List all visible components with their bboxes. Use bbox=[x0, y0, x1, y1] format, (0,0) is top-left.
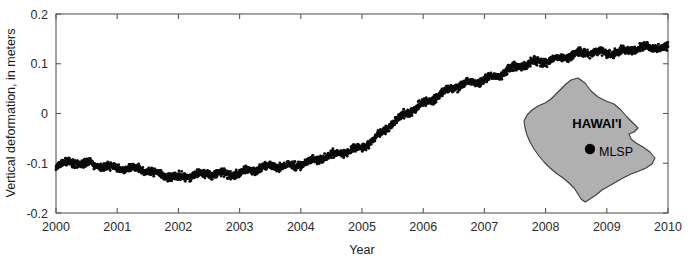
y-tick-label: 0.1 bbox=[31, 57, 48, 71]
x-tick-label: 2010 bbox=[654, 220, 682, 234]
hawaii-inset-map: HAWAI'I MLSP bbox=[524, 78, 655, 202]
x-tick-label: 2008 bbox=[532, 220, 560, 234]
station-marker-label: MLSP bbox=[599, 145, 633, 159]
x-tick-label: 2003 bbox=[226, 220, 254, 234]
x-tick-label: 2002 bbox=[164, 220, 192, 234]
x-tick-label: 2004 bbox=[287, 220, 315, 234]
station-marker-dot bbox=[585, 144, 595, 154]
y-tick-label: -0.1 bbox=[26, 157, 48, 171]
x-axis-title: Year bbox=[349, 243, 374, 257]
y-tick-label: -0.2 bbox=[26, 207, 48, 221]
x-tick-label: 2000 bbox=[42, 220, 70, 234]
figure-container: 0.20.10-0.1-0.2 200020012002200320042005… bbox=[0, 0, 688, 269]
y-tick-label: 0 bbox=[41, 107, 48, 121]
x-tick-label: 2006 bbox=[409, 220, 437, 234]
deformation-time-series-chart: 0.20.10-0.1-0.2 200020012002200320042005… bbox=[0, 0, 688, 269]
x-tick-label: 2001 bbox=[103, 220, 131, 234]
island-silhouette bbox=[524, 78, 655, 202]
x-axis-tick-labels: 2000200120022003200420052006200720082009… bbox=[42, 220, 682, 234]
y-axis-title: Vertical deformation, in meters bbox=[4, 29, 18, 198]
x-tick-label: 2009 bbox=[593, 220, 621, 234]
y-tick-label: 0.2 bbox=[31, 8, 48, 22]
island-name-label: HAWAI'I bbox=[572, 116, 621, 131]
y-axis-tick-labels: 0.20.10-0.1-0.2 bbox=[26, 8, 48, 221]
x-tick-label: 2007 bbox=[470, 220, 498, 234]
x-tick-label: 2005 bbox=[348, 220, 376, 234]
